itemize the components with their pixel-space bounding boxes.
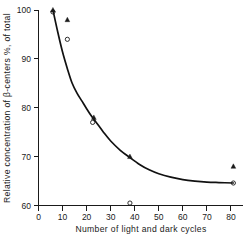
y-axis-tick-labels: 60708090100 bbox=[17, 5, 31, 211]
x-tick-label: 0 bbox=[36, 212, 41, 222]
x-axis-tick-labels: 01020304050607080 bbox=[36, 212, 236, 222]
y-tick-label: 100 bbox=[17, 5, 31, 15]
y-tick-label: 60 bbox=[22, 201, 32, 211]
y-tick-label: 90 bbox=[22, 54, 32, 64]
y-tick-label: 80 bbox=[22, 103, 32, 113]
fitted-curve bbox=[53, 10, 233, 183]
data-point-circle bbox=[128, 201, 132, 205]
x-tick-label: 10 bbox=[58, 212, 68, 222]
chart-figure: 60708090100 01020304050607080 Number of … bbox=[0, 0, 251, 243]
x-tick-label: 50 bbox=[154, 212, 164, 222]
x-tick-label: 20 bbox=[82, 212, 92, 222]
x-tick-label: 80 bbox=[226, 212, 236, 222]
scatter-plot: 60708090100 01020304050607080 Number of … bbox=[0, 0, 251, 243]
data-point-circle bbox=[91, 120, 95, 124]
y-tick-label: 70 bbox=[22, 152, 32, 162]
x-tick-label: 30 bbox=[106, 212, 116, 222]
data-point-circle bbox=[65, 37, 69, 41]
y-axis-title: Relative concentration of β-centers %, o… bbox=[2, 13, 12, 203]
x-tick-label: 60 bbox=[178, 212, 188, 222]
data-point-triangle bbox=[65, 17, 70, 22]
triangle-data-markers bbox=[51, 7, 236, 168]
y-axis-ticks bbox=[34, 10, 39, 206]
x-tick-label: 70 bbox=[202, 212, 212, 222]
x-axis-title: Number of light and dark cycles bbox=[75, 224, 206, 234]
x-tick-label: 40 bbox=[130, 212, 140, 222]
data-point-triangle bbox=[231, 164, 236, 169]
x-axis-ticks bbox=[39, 206, 231, 211]
circle-data-markers bbox=[51, 10, 236, 205]
